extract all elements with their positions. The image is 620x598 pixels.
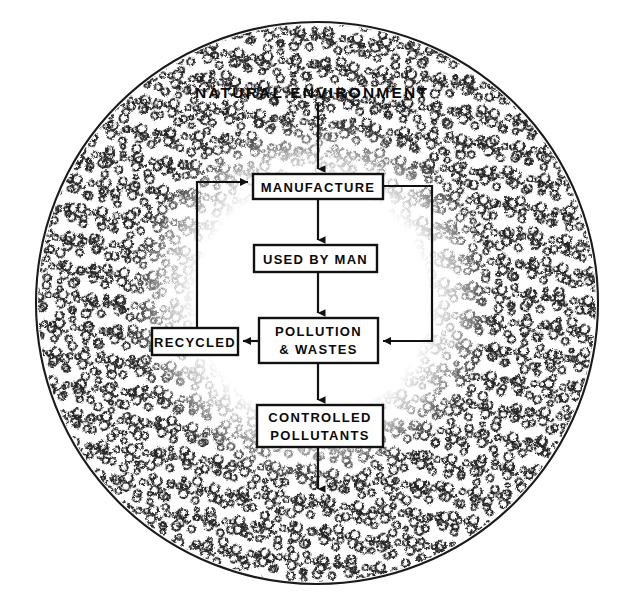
- node-pollution-and-wastes-label-line2: & WASTES: [279, 342, 357, 357]
- figure-canvas: NATURAL ENVIRONMENT MANUFACTURE USED BY …: [0, 0, 620, 598]
- node-used-by-man[interactable]: USED BY MAN: [254, 245, 377, 272]
- flow-diagram: NATURAL ENVIRONMENT MANUFACTURE USED BY …: [0, 0, 620, 598]
- node-recycled[interactable]: RECYCLED: [152, 328, 238, 355]
- node-pollution-and-wastes[interactable]: POLLUTION & WASTES: [259, 318, 378, 363]
- node-pollution-and-wastes-label-line1: POLLUTION: [275, 324, 362, 339]
- node-controlled-pollutants[interactable]: CONTROLLED POLLUTANTS: [257, 405, 383, 447]
- node-manufacture-label: MANUFACTURE: [261, 180, 376, 195]
- node-used-by-man-label: USED BY MAN: [263, 252, 368, 267]
- node-controlled-pollutants-label-line1: CONTROLLED: [268, 410, 371, 425]
- natural-environment-title: NATURAL ENVIRONMENT: [195, 84, 429, 101]
- node-manufacture[interactable]: MANUFACTURE: [253, 174, 383, 199]
- node-controlled-pollutants-label-line2: POLLUTANTS: [270, 428, 369, 443]
- node-recycled-label: RECYCLED: [154, 335, 236, 350]
